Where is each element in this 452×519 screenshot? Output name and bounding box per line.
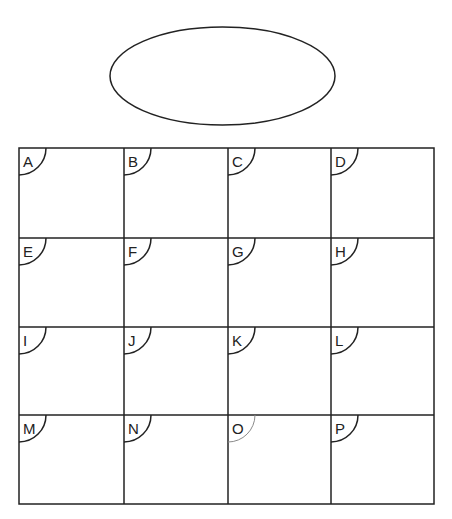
grid-cell-a: A	[19, 148, 46, 175]
cell-label: J	[128, 332, 136, 349]
grid-cell-f: F	[124, 238, 151, 265]
grid-cell-m: M	[19, 415, 46, 442]
cell-label: O	[232, 420, 244, 437]
cell-label: M	[23, 420, 36, 437]
grid	[19, 148, 434, 504]
grid-cell-k: K	[228, 327, 255, 354]
cell-label: K	[232, 332, 242, 349]
cell-label: F	[128, 243, 137, 260]
cell-label: D	[335, 153, 346, 170]
grid-cell-c: C	[228, 148, 255, 175]
cell-label: P	[335, 420, 345, 437]
grid-cell-j: J	[124, 327, 151, 354]
ellipse-shape	[110, 27, 335, 125]
grid-cell-l: L	[331, 327, 358, 354]
cell-label: G	[232, 243, 244, 260]
cell-label: H	[335, 243, 346, 260]
cell-label: I	[23, 332, 27, 349]
grid-cell-h: H	[331, 238, 358, 265]
grid-cell-i: I	[19, 327, 46, 354]
diagram-canvas: ABCDEFGHIJKLMNOP	[0, 0, 452, 519]
cell-label: A	[23, 153, 33, 170]
cell-label: N	[128, 420, 139, 437]
grid-cell-o: O	[228, 415, 255, 442]
grid-cell-g: G	[228, 238, 255, 265]
cell-label: E	[23, 243, 33, 260]
grid-cell-p: P	[331, 415, 358, 442]
cell-label: L	[335, 332, 343, 349]
grid-cell-e: E	[19, 238, 46, 265]
cell-label: B	[128, 153, 138, 170]
grid-cell-d: D	[331, 148, 358, 175]
cell-label: C	[232, 153, 243, 170]
grid-cell-n: N	[124, 415, 151, 442]
grid-border	[19, 148, 434, 504]
grid-cell-b: B	[124, 148, 151, 175]
